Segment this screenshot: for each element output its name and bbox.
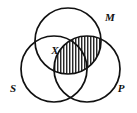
x-marker-label: X [50, 44, 59, 56]
venn-diagram: M S P X [0, 0, 137, 113]
circle-label-m: M [104, 11, 116, 23]
circle-label-p: P [118, 82, 125, 94]
venn-diagram-canvas: M S P X [0, 0, 137, 113]
circle-label-s: S [10, 82, 16, 94]
